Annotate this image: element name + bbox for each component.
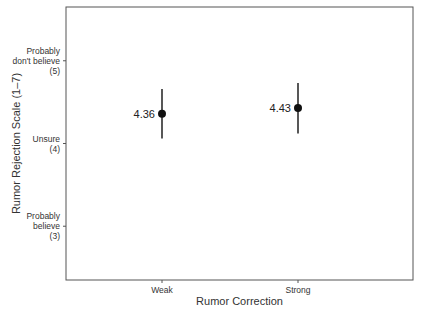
data-point [294,104,302,112]
value-label: 4.43 [270,102,291,114]
y-tick-label: Unsure [33,134,61,144]
y-tick-label: (4) [50,144,61,154]
value-label: 4.36 [134,108,155,120]
y-tick-label: Probably [26,211,60,221]
x-axis-ticks: WeakStrong [151,280,311,295]
y-tick-label: (3) [50,231,61,241]
x-axis-title: Rumor Correction [196,295,283,307]
x-tick-label: Weak [151,285,173,295]
y-tick-label: don't believe [13,56,61,66]
chart-canvas: Probablydon't believe(5)Unsure(4)Probabl… [0,0,421,316]
data-point [158,110,166,118]
y-tick-label: believe [33,221,60,231]
x-tick-label: Strong [285,285,310,295]
data-points: 4.364.43 [134,83,302,138]
plot-frame [66,7,413,280]
y-tick-label: (5) [50,66,61,76]
y-axis-title: Rumor Rejection Scale (1–7) [10,73,22,214]
y-tick-label: Probably [26,46,60,56]
